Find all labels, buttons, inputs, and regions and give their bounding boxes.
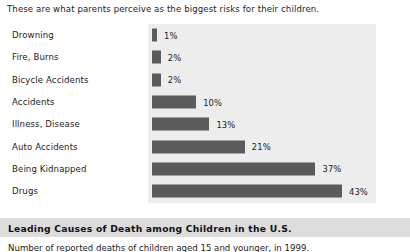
footer-banner-title: Leading Causes of Death among Children i…	[8, 222, 292, 233]
bar-wrapper: 43%	[152, 185, 368, 198]
table-row: Accidents10%	[0, 91, 410, 113]
footer-caption: Number of reported deaths of children ag…	[8, 243, 408, 252]
bar	[152, 96, 196, 109]
bar	[152, 73, 161, 86]
table-row: Auto Accidents21%	[0, 136, 410, 158]
bar-category-label: Drowning	[12, 30, 54, 40]
chart-rows: Drowning1%Fire, Burns2%Bicycle Accidents…	[0, 24, 410, 203]
bar-category-label: Drugs	[12, 186, 38, 196]
table-row: Illness, Disease13%	[0, 113, 410, 135]
bar	[152, 140, 245, 153]
bar-value-label: 21%	[252, 142, 271, 152]
bar-wrapper: 37%	[152, 162, 341, 175]
bar	[152, 51, 161, 64]
bar-category-label: Auto Accidents	[12, 142, 78, 152]
bar-value-label: 2%	[168, 52, 182, 62]
table-row: Drugs43%	[0, 180, 410, 202]
intro-text: These are what parents perceive as the b…	[7, 4, 319, 15]
table-row: Bicycle Accidents2%	[0, 69, 410, 91]
bar-wrapper: 1%	[152, 29, 178, 42]
bar-value-label: 10%	[203, 97, 222, 107]
bar	[152, 162, 315, 175]
bar-value-label: 1%	[164, 30, 178, 40]
table-row: Fire, Burns2%	[0, 46, 410, 68]
bar	[152, 29, 157, 42]
bar-category-label: Accidents	[12, 97, 55, 107]
bar-category-label: Fire, Burns	[12, 52, 59, 62]
bar	[152, 185, 342, 198]
bar-wrapper: 21%	[152, 140, 271, 153]
table-row: Being Kidnapped37%	[0, 158, 410, 180]
bar	[152, 118, 209, 131]
bar-category-label: Illness, Disease	[12, 119, 80, 129]
bar-value-label: 37%	[322, 164, 341, 174]
bar-chart: Drowning1%Fire, Burns2%Bicycle Accidents…	[0, 24, 410, 204]
bar-value-label: 43%	[349, 186, 368, 196]
bar-wrapper: 2%	[152, 73, 181, 86]
bar-value-label: 13%	[216, 119, 235, 129]
table-row: Drowning1%	[0, 24, 410, 46]
bar-category-label: Being Kidnapped	[12, 164, 87, 174]
bar-wrapper: 10%	[152, 96, 222, 109]
bar-wrapper: 2%	[152, 51, 181, 64]
footer-banner: Leading Causes of Death among Children i…	[0, 218, 410, 237]
bar-value-label: 2%	[168, 75, 182, 85]
bar-category-label: Bicycle Accidents	[12, 75, 89, 85]
bar-wrapper: 13%	[152, 118, 235, 131]
